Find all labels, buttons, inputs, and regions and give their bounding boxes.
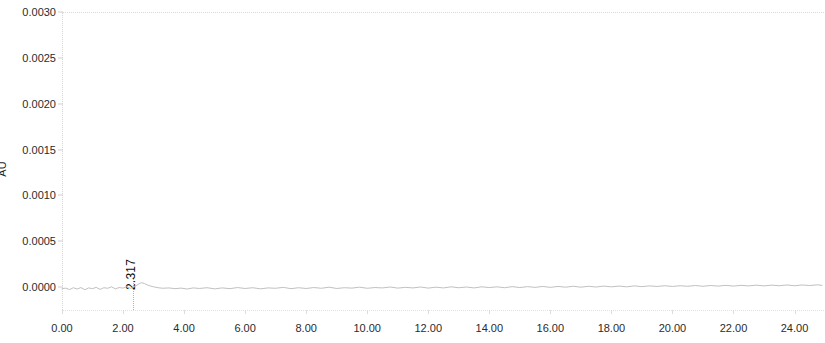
x-tick-label: 8.00: [295, 322, 316, 334]
y-tick-mark: [58, 149, 63, 150]
x-tick-label: 22.00: [720, 322, 748, 334]
y-tick-label: 0.0030: [0, 6, 56, 18]
x-tick-label: 6.00: [234, 322, 255, 334]
x-tick-label: 0.00: [51, 322, 72, 334]
x-tick-mark: [795, 310, 796, 314]
y-tick-mark: [58, 103, 63, 104]
y-tick-label: 0.0015: [0, 144, 56, 156]
x-tick-mark: [611, 310, 612, 314]
y-tick-mark: [58, 195, 63, 196]
chromatogram-chart: AU 0.00000.00050.00100.00150.00200.00250…: [0, 0, 825, 343]
x-tick-mark: [672, 310, 673, 314]
peak-retention-time-label: 2.317: [124, 259, 138, 290]
x-tick-label: 4.00: [173, 322, 194, 334]
x-tick-mark: [428, 310, 429, 314]
y-tick-label: 0.0000: [0, 281, 56, 293]
y-tick-mark: [58, 57, 63, 58]
x-tick-label: 14.00: [476, 322, 504, 334]
y-tick-label: 0.0020: [0, 98, 56, 110]
x-tick-label: 10.00: [353, 322, 381, 334]
x-tick-mark: [489, 310, 490, 314]
x-tick-mark: [550, 310, 551, 314]
x-tick-mark: [184, 310, 185, 314]
x-tick-mark: [733, 310, 734, 314]
x-tick-mark: [245, 310, 246, 314]
x-tick-label: 12.00: [414, 322, 442, 334]
axis-top-border: [62, 12, 824, 13]
x-tick-label: 2.00: [112, 322, 133, 334]
signal-trace-canvas: [0, 0, 825, 343]
x-tick-mark: [123, 310, 124, 314]
axis-bottom-border: [62, 310, 824, 311]
x-tick-mark: [367, 310, 368, 314]
y-axis-title: AU: [0, 161, 8, 176]
x-tick-mark: [62, 310, 63, 314]
y-tick-mark: [58, 287, 63, 288]
chart-title: [0, 0, 825, 1]
y-tick-label: 0.0005: [0, 235, 56, 247]
detector-signal-trace: [62, 283, 822, 290]
y-tick-label: 0.0025: [0, 52, 56, 64]
x-tick-label: 16.00: [537, 322, 565, 334]
y-tick-mark: [58, 241, 63, 242]
y-tick-label: 0.0010: [0, 189, 56, 201]
x-tick-label: 18.00: [598, 322, 626, 334]
x-tick-mark: [306, 310, 307, 314]
y-tick-mark: [58, 12, 63, 13]
x-tick-label: 24.00: [781, 322, 809, 334]
x-tick-label: 20.00: [659, 322, 687, 334]
